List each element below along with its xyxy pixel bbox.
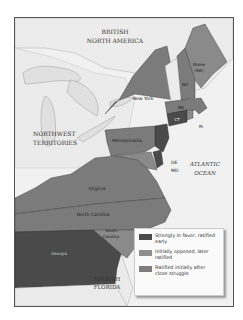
label-ocean-2: OCEAN bbox=[194, 170, 216, 176]
label-ocean-1: ATLANTIC bbox=[189, 161, 221, 167]
label-ri: RI bbox=[199, 124, 203, 129]
label-nwt-2: TERRITORIES bbox=[33, 139, 77, 146]
label-bna-2: NORTH AMERICA bbox=[87, 37, 144, 44]
label-south-carolina-2: Carolina bbox=[103, 234, 120, 239]
label-maine-2: (MA) bbox=[194, 68, 204, 73]
label-fl-1: SPANISH bbox=[94, 276, 121, 282]
label-georgia: Georgia bbox=[51, 251, 67, 256]
label-bna-1: BRITISH bbox=[101, 28, 128, 35]
label-ct: CT bbox=[174, 117, 180, 122]
legend-swatch-struggle bbox=[139, 266, 152, 272]
state-rhode-island-main bbox=[187, 110, 193, 120]
legend-item-later: Initially opposed, later ratified bbox=[139, 249, 219, 262]
map-legend: Strongly in favor, ratified early Initia… bbox=[134, 228, 224, 296]
label-new-york: New York bbox=[133, 96, 154, 101]
legend-label-early: Strongly in favor, ratified early bbox=[155, 233, 219, 246]
legend-label-struggle: Ratified initially after close struggle bbox=[155, 265, 219, 278]
label-ma: MA bbox=[178, 105, 184, 110]
label-maine: Maine bbox=[193, 62, 206, 67]
state-new-york-upper bbox=[105, 46, 175, 114]
label-nwt-1: NORTHWEST bbox=[33, 130, 75, 137]
label-virginia: Virginia bbox=[89, 186, 106, 191]
label-md: MD bbox=[171, 168, 179, 173]
label-north-carolina: North Carolina bbox=[77, 212, 110, 217]
legend-label-later: Initially opposed, later ratified bbox=[155, 249, 219, 262]
legend-item-struggle: Ratified initially after close struggle bbox=[139, 265, 219, 278]
label-south-carolina-1: South bbox=[105, 228, 117, 233]
state-new-jersey-main bbox=[155, 124, 169, 152]
legend-swatch-early bbox=[139, 234, 152, 240]
legend-swatch-later bbox=[139, 250, 152, 256]
legend-item-early: Strongly in favor, ratified early bbox=[139, 233, 219, 246]
label-pennsylvania: Pennsylvania bbox=[112, 138, 142, 143]
label-nh: NH bbox=[182, 82, 188, 87]
label-fl-2: FLORIDA bbox=[94, 284, 122, 290]
label-de: DE bbox=[171, 160, 177, 165]
